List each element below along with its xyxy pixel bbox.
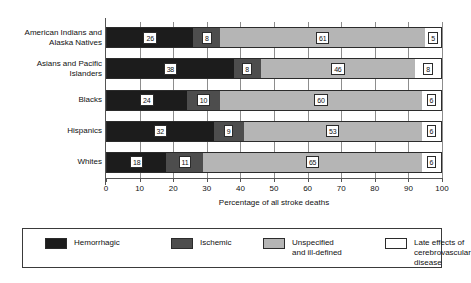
x-axis-tick-label: 80 — [370, 184, 379, 193]
x-axis-line: 0102030405060708090100 — [106, 178, 442, 179]
bar-value-label: 9 — [224, 125, 234, 137]
stacked-bar: 2410606 — [106, 90, 442, 111]
bar-value-label: 18 — [130, 156, 143, 168]
bar-segment-hemorrhagic: 32 — [106, 121, 214, 142]
x-axis-tick-label: 50 — [270, 184, 279, 193]
legend-label: Late effects of cerebrovascular disease — [414, 238, 471, 268]
bar-value-label: 11 — [179, 156, 192, 168]
chart-legend: HemorrhagicIschemicUnspecified and ill-d… — [22, 228, 442, 268]
stacked-bar: 388468 — [106, 58, 442, 79]
legend-item-late: Late effects of cerebrovascular disease — [385, 238, 471, 268]
bar-segment-unspecified: 61 — [220, 27, 425, 48]
bar-segment-hemorrhagic: 24 — [106, 90, 187, 111]
bar-value-label: 46 — [331, 63, 344, 75]
bar-segment-late: 6 — [422, 90, 442, 111]
bar-segment-unspecified: 46 — [261, 58, 416, 79]
bar-segment-late: 6 — [422, 121, 442, 142]
x-axis-tick — [442, 178, 443, 182]
bar-value-label: 6 — [427, 94, 437, 106]
category-label: American Indians andAlaska Natives — [6, 28, 102, 48]
x-axis-tick — [140, 178, 141, 182]
x-axis-tick-label: 100 — [435, 184, 448, 193]
x-axis-tick-label: 0 — [104, 184, 108, 193]
category-label: Asians and PacificIslanders — [6, 59, 102, 79]
bar-segment-ischemic: 8 — [193, 27, 220, 48]
bar-value-label: 8 — [202, 32, 212, 44]
bar-value-label: 26 — [143, 32, 156, 44]
x-axis-tick — [341, 178, 342, 182]
x-axis-tick-label: 20 — [169, 184, 178, 193]
bar-value-label: 5 — [428, 32, 438, 44]
bar-row: 388468 — [106, 58, 442, 79]
bar-value-label: 10 — [197, 94, 210, 106]
bar-row: 1811656 — [106, 152, 442, 173]
bar-value-label: 24 — [140, 94, 153, 106]
gridline — [442, 22, 443, 178]
x-axis-tick — [173, 178, 174, 182]
bar-segment-unspecified: 65 — [203, 152, 421, 173]
bar-value-label: 60 — [314, 94, 327, 106]
x-axis-tick — [207, 178, 208, 182]
bar-value-label: 6 — [427, 125, 437, 137]
legend-swatch-unspecified — [263, 238, 285, 249]
legend-swatch-hemorrhagic — [45, 238, 67, 249]
bar-segment-hemorrhagic: 18 — [106, 152, 166, 173]
stacked-bar: 329536 — [106, 121, 442, 142]
bar-segment-hemorrhagic: 26 — [106, 27, 193, 48]
legend-swatch-ischemic — [171, 238, 193, 249]
bar-segment-ischemic: 8 — [234, 58, 261, 79]
plot-area: 26861538846824106063295361811656 — [106, 22, 442, 178]
legend-item-unspecified: Unspecified and ill-defined — [263, 238, 342, 258]
x-axis-tick-label: 70 — [337, 184, 346, 193]
legend-label: Ischemic — [200, 238, 232, 248]
bar-row: 2410606 — [106, 90, 442, 111]
stacked-bar: 268615 — [106, 27, 442, 48]
x-axis-tick — [274, 178, 275, 182]
legend-swatch-late — [385, 238, 407, 249]
bar-value-label: 65 — [306, 156, 319, 168]
bar-segment-ischemic: 10 — [187, 90, 221, 111]
legend-item-hemorrhagic: Hemorrhagic — [45, 238, 120, 249]
bar-value-label: 8 — [423, 63, 433, 75]
bar-segment-unspecified: 53 — [244, 121, 422, 142]
bar-value-label: 61 — [316, 32, 329, 44]
x-axis-tick — [240, 178, 241, 182]
bar-segment-late: 6 — [422, 152, 442, 173]
stacked-bar: 1811656 — [106, 152, 442, 173]
legend-item-ischemic: Ischemic — [171, 238, 232, 249]
legend-label: Unspecified and ill-defined — [292, 238, 342, 258]
x-axis-title: Percentage of all stroke deaths — [106, 198, 442, 207]
x-axis-tick — [308, 178, 309, 182]
x-axis-tick — [408, 178, 409, 182]
x-axis-tick-label: 90 — [404, 184, 413, 193]
bar-segment-unspecified: 60 — [220, 90, 422, 111]
x-axis-tick — [375, 178, 376, 182]
x-axis-tick — [106, 178, 107, 182]
bar-value-label: 53 — [326, 125, 339, 137]
bar-row: 329536 — [106, 121, 442, 142]
x-axis-tick-label: 30 — [202, 184, 211, 193]
bar-segment-late: 8 — [415, 58, 442, 79]
category-label: Hispanics — [6, 126, 102, 136]
category-label: Blacks — [6, 95, 102, 105]
bar-value-label: 32 — [154, 125, 167, 137]
legend-label: Hemorrhagic — [74, 238, 120, 248]
bar-value-label: 8 — [242, 63, 252, 75]
x-axis-tick-label: 40 — [236, 184, 245, 193]
bar-row: 268615 — [106, 27, 442, 48]
category-label: Whites — [6, 157, 102, 167]
bar-segment-ischemic: 11 — [166, 152, 203, 173]
bar-value-label: 38 — [164, 63, 177, 75]
bar-segment-late: 5 — [425, 27, 442, 48]
bar-segment-hemorrhagic: 38 — [106, 58, 234, 79]
bar-value-label: 6 — [427, 156, 437, 168]
x-axis-tick-label: 60 — [303, 184, 312, 193]
x-axis-tick-label: 10 — [135, 184, 144, 193]
category-label-group: American Indians andAlaska NativesAsians… — [0, 22, 102, 178]
bar-segment-ischemic: 9 — [214, 121, 244, 142]
